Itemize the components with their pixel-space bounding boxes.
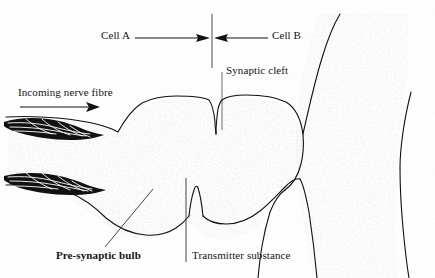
label-synaptic-cleft: Synaptic cleft — [226, 64, 288, 76]
label-cell-b: Cell B — [272, 29, 301, 41]
synapse-diagram: Cell A Cell B Synaptic cleft Incoming ne… — [0, 0, 435, 278]
label-incoming-nerve-fibre: Incoming nerve fibre — [18, 86, 113, 98]
label-pre-synaptic-bulb: Pre-synaptic bulb — [56, 249, 141, 261]
synapse-figure — [0, 0, 435, 278]
label-transmitter-substance: Transmitter substance — [192, 249, 291, 261]
label-cell-a: Cell A — [101, 29, 130, 41]
